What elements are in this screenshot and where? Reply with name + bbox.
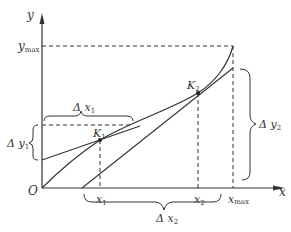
characteristic-curve — [42, 46, 233, 188]
x2-label: x2 — [194, 193, 205, 207]
tangent-line-k2 — [82, 68, 233, 188]
brace-delta-y2 — [240, 69, 256, 180]
y-axis-label: y — [26, 8, 34, 22]
ymax-label: ymax — [17, 39, 40, 54]
x1-label: x1 — [96, 193, 107, 207]
guides — [42, 46, 233, 188]
delta-x1-label: Δ x1 — [72, 101, 95, 115]
k2-label: K2 — [186, 79, 200, 93]
y-axis-arrow-icon — [40, 13, 45, 24]
xmax-label: xmax — [228, 193, 249, 206]
diagram-canvas: y x O ymax xmax x1 x2 K1 K2 Δ x1 Δ y1 Δ … — [0, 0, 291, 232]
origin-label: O — [28, 184, 38, 198]
k1-label: K1 — [92, 127, 106, 141]
brace-delta-y1 — [29, 125, 38, 160]
delta-x2-label: Δ x2 — [155, 212, 178, 226]
delta-y1-label: Δ y1 — [6, 137, 29, 151]
delta-y2-label: Δ y2 — [258, 118, 281, 132]
x-axis-label: x — [279, 185, 286, 199]
tangent-line-k1 — [42, 126, 140, 160]
